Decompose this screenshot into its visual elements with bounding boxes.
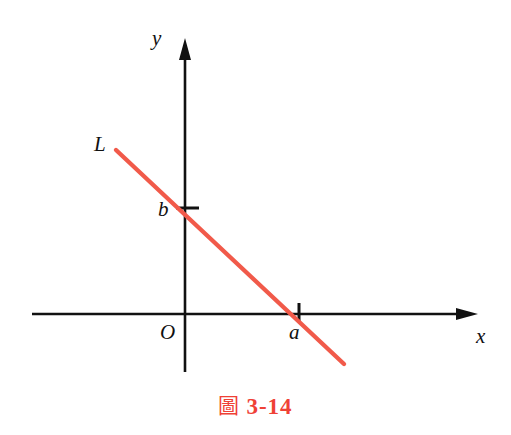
coordinate-diagram (0, 0, 511, 435)
y-axis (179, 38, 191, 372)
caption-cjk-character: 圖 (218, 394, 240, 418)
caption-number: 3-14 (246, 394, 292, 419)
origin-label: O (160, 322, 175, 343)
y-axis-label: y (152, 28, 161, 49)
figure-caption: 圖3-14 (0, 389, 511, 420)
line-L (116, 150, 344, 364)
line-label: L (94, 134, 106, 155)
x-intercept-label: a (289, 322, 300, 343)
figure-container: y x O b a L 圖3-14 (0, 0, 511, 435)
x-axis-label: x (476, 326, 485, 347)
y-intercept-label: b (158, 199, 169, 220)
x-axis (32, 308, 478, 320)
